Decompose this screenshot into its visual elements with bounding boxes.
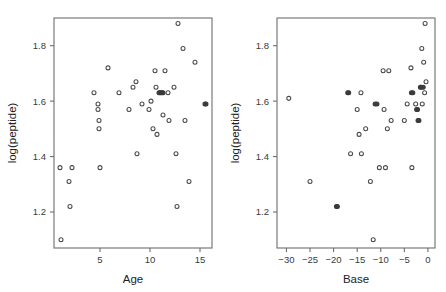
data-point (204, 102, 208, 106)
data-point (382, 107, 386, 111)
data-point (357, 132, 361, 136)
data-point (181, 46, 185, 50)
x-tick-label: −30 (278, 254, 294, 265)
data-point (96, 107, 100, 111)
x-axis-title: Base (343, 273, 369, 285)
data-point (405, 102, 409, 106)
x-axis-title: Age (123, 273, 143, 285)
data-point (161, 113, 165, 117)
y-tick-label: 1.4 (33, 151, 46, 162)
scatter-plot-base: −30−25−20−15−10−501.21.41.61.8Baselog(pe… (223, 0, 446, 292)
data-point (381, 69, 385, 73)
data-point (166, 91, 170, 95)
data-point (335, 204, 339, 208)
data-point (172, 85, 176, 89)
data-point (416, 107, 420, 111)
data-point (193, 60, 197, 64)
data-point (68, 204, 72, 208)
y-axis-title: log(peptide) (229, 102, 241, 163)
plot-frame (54, 18, 212, 248)
x-tick-label: 10 (145, 254, 156, 265)
data-point (421, 85, 425, 89)
data-point (175, 204, 179, 208)
data-point (359, 152, 363, 156)
data-point (149, 99, 153, 103)
data-point (308, 179, 312, 183)
data-point (371, 238, 375, 242)
y-tick-label: 1.8 (256, 40, 269, 51)
data-point (187, 179, 191, 183)
data-point (411, 91, 415, 95)
x-tick-label: −10 (373, 254, 389, 265)
data-point (67, 179, 71, 183)
data-point (106, 66, 110, 70)
data-point (385, 127, 389, 131)
data-point (422, 60, 426, 64)
x-tick-label: 5 (97, 254, 102, 265)
data-point (424, 80, 428, 84)
data-point (155, 132, 159, 136)
data-point (359, 91, 363, 95)
data-point (287, 96, 291, 100)
data-point (383, 166, 387, 170)
x-tick-label: 0 (425, 254, 430, 265)
data-point (417, 119, 421, 123)
y-axis-title: log(peptide) (6, 102, 18, 163)
data-point (414, 102, 418, 106)
data-point (134, 80, 138, 84)
plot-frame (277, 18, 435, 248)
data-point (161, 91, 165, 95)
data-point (96, 102, 100, 106)
data-point (364, 127, 368, 131)
scatter-figure: 510151.21.41.61.8Agelog(peptide) −30−25−… (0, 0, 446, 292)
data-point (92, 91, 96, 95)
data-point (147, 107, 151, 111)
data-point (410, 166, 414, 170)
data-point (420, 46, 424, 50)
y-tick-label: 1.2 (256, 206, 269, 217)
data-point (349, 152, 353, 156)
data-point (402, 119, 406, 123)
y-tick-label: 1.8 (33, 40, 46, 51)
data-point (347, 91, 351, 95)
x-tick-label: 15 (195, 254, 206, 265)
data-point (387, 69, 391, 73)
data-point (97, 119, 101, 123)
data-point (423, 22, 427, 26)
data-point (368, 179, 372, 183)
x-tick-label: −20 (326, 254, 342, 265)
data-point (174, 152, 178, 156)
data-point (97, 127, 101, 131)
y-tick-label: 1.6 (33, 96, 46, 107)
data-point (409, 66, 413, 70)
scatter-plot-age: 510151.21.41.61.8Agelog(peptide) (0, 0, 223, 292)
x-tick-label: −15 (349, 254, 365, 265)
y-tick-label: 1.2 (33, 206, 46, 217)
data-point (375, 102, 379, 106)
data-point (98, 166, 102, 170)
data-point (183, 119, 187, 123)
panel-age: 510151.21.41.61.8Agelog(peptide) (0, 0, 223, 292)
x-tick-label: −25 (302, 254, 318, 265)
data-point (153, 69, 157, 73)
data-point (58, 166, 62, 170)
data-point (131, 85, 135, 89)
data-point (135, 152, 139, 156)
data-point (377, 166, 381, 170)
data-point (389, 119, 393, 123)
data-point (127, 107, 131, 111)
panel-base: −30−25−20−15−10−501.21.41.61.8Baselog(pe… (223, 0, 446, 292)
data-point (423, 91, 427, 95)
data-point (151, 127, 155, 131)
data-point (420, 102, 424, 106)
y-tick-label: 1.4 (256, 151, 269, 162)
data-point (117, 91, 121, 95)
data-point (140, 102, 144, 106)
y-tick-label: 1.6 (256, 96, 269, 107)
data-point (70, 166, 74, 170)
data-point (355, 107, 359, 111)
data-point (163, 69, 167, 73)
data-point (167, 119, 171, 123)
data-point (176, 22, 180, 26)
data-point (154, 85, 158, 89)
